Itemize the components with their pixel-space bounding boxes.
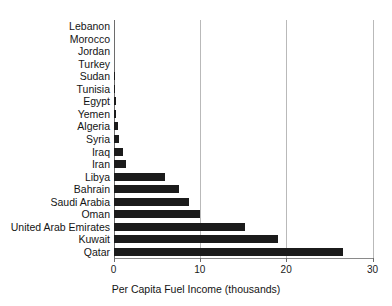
bar <box>114 110 117 118</box>
category-label: Libya <box>0 171 110 182</box>
bar <box>114 85 115 93</box>
category-label: Tunisia <box>0 83 110 94</box>
bar-chart: LebanonMoroccoJordanTurkeySudanTunisiaEg… <box>0 0 392 306</box>
category-label: Morocco <box>0 33 110 44</box>
bar <box>114 135 119 143</box>
category-label: Qatar <box>0 246 110 257</box>
category-label: Saudi Arabia <box>0 196 110 207</box>
x-tick-label: 0 <box>111 264 117 276</box>
category-label: Lebanon <box>0 21 110 32</box>
category-label: Egypt <box>0 96 110 107</box>
category-label: Iraq <box>0 146 110 157</box>
bar <box>114 72 115 80</box>
bar <box>114 248 344 256</box>
tick-mark-30 <box>373 258 374 262</box>
bar <box>114 235 278 243</box>
y-axis-category-labels: LebanonMoroccoJordanTurkeySudanTunisiaEg… <box>0 20 110 258</box>
category-label: Jordan <box>0 46 110 57</box>
x-tick-label: 10 <box>194 264 205 276</box>
gridline-20 <box>286 20 287 258</box>
bar <box>114 223 245 231</box>
bar <box>114 210 200 218</box>
category-label: Bahrain <box>0 184 110 195</box>
category-label: Iran <box>0 159 110 170</box>
category-label: Algeria <box>0 121 110 132</box>
bar <box>114 148 123 156</box>
category-label: Oman <box>0 209 110 220</box>
category-label: United Arab Emirates <box>0 221 110 232</box>
category-label: Turkey <box>0 58 110 69</box>
category-label: Kuwait <box>0 234 110 245</box>
plot-area <box>114 20 373 258</box>
category-label: Yemen <box>0 108 110 119</box>
x-axis-title: Per Capita Fuel Income (thousands) <box>0 283 392 296</box>
tick-mark-10 <box>200 258 201 262</box>
x-axis-line <box>114 258 373 259</box>
bar <box>114 160 126 168</box>
bar <box>114 97 116 105</box>
bar <box>114 173 166 181</box>
x-tick-label: 20 <box>281 264 292 276</box>
gridline-30 <box>373 20 374 258</box>
bar <box>114 185 180 193</box>
bar <box>114 122 118 130</box>
tick-mark-0 <box>114 258 115 262</box>
category-label: Syria <box>0 134 110 145</box>
category-label: Sudan <box>0 71 110 82</box>
x-tick-label: 30 <box>367 264 378 276</box>
bar <box>114 198 189 206</box>
tick-mark-20 <box>286 258 287 262</box>
